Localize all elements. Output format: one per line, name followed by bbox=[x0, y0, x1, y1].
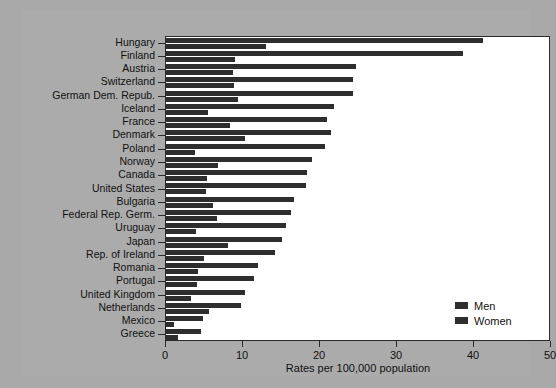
bar-men bbox=[166, 117, 327, 122]
y-axis-tick-label: Uruguay bbox=[115, 222, 155, 233]
bar-women bbox=[166, 203, 213, 208]
bar-men bbox=[166, 250, 275, 255]
bar-men bbox=[166, 237, 282, 242]
bar-women bbox=[166, 216, 217, 221]
y-axis-tick-label: Federal Rep. Germ. bbox=[62, 209, 155, 220]
bar-men bbox=[166, 290, 245, 295]
y-axis-tick-label: Austria bbox=[122, 63, 155, 74]
x-axis-tick-label: 20 bbox=[313, 349, 325, 361]
x-axis-tick-label: 30 bbox=[390, 349, 402, 361]
x-axis-tick-label: 10 bbox=[236, 349, 248, 361]
bar-men bbox=[166, 183, 306, 188]
legend-swatch-icon bbox=[455, 317, 468, 324]
bar-men bbox=[166, 157, 312, 162]
y-axis-tick bbox=[158, 228, 165, 229]
y-axis-tick-label: Poland bbox=[122, 143, 155, 154]
x-axis-tick bbox=[473, 341, 474, 347]
bar-men bbox=[166, 263, 258, 268]
bar-women bbox=[166, 57, 235, 62]
x-axis-tick bbox=[165, 341, 166, 347]
y-axis-tick-label: France bbox=[122, 116, 155, 127]
y-axis-tick-label: Canada bbox=[118, 169, 155, 180]
x-axis-tick-label: 50 bbox=[544, 349, 556, 361]
y-axis-tick-label: United Kingdom bbox=[80, 289, 155, 300]
chart-panel: HungaryFinlandAustriaSwitzerlandGerman D… bbox=[22, 10, 530, 376]
bar-men bbox=[166, 197, 294, 202]
x-axis-title: Rates per 100,000 population bbox=[165, 362, 551, 374]
y-axis-tick bbox=[158, 242, 165, 243]
bar-women bbox=[166, 309, 209, 314]
y-axis-tick-label: Norway bbox=[119, 156, 155, 167]
y-axis-tick bbox=[158, 56, 165, 57]
bar-men bbox=[166, 51, 463, 56]
y-axis-tick-label: Greece bbox=[121, 328, 155, 339]
y-axis-tick-label: Hungary bbox=[115, 37, 155, 48]
bar-men bbox=[166, 38, 483, 43]
y-axis-tick bbox=[158, 202, 165, 203]
y-axis-tick bbox=[158, 69, 165, 70]
bar-women bbox=[166, 97, 238, 102]
bar-women bbox=[166, 176, 207, 181]
y-axis-tick-label: Netherlands bbox=[98, 302, 155, 313]
bar-women bbox=[166, 83, 234, 88]
bar-women bbox=[166, 150, 195, 155]
bars-container bbox=[166, 37, 551, 342]
y-axis-tick bbox=[158, 281, 165, 282]
y-axis-tick bbox=[158, 109, 165, 110]
bar-men bbox=[166, 316, 203, 321]
bar-men bbox=[166, 303, 241, 308]
bar-women bbox=[166, 229, 196, 234]
legend-swatch-icon bbox=[455, 302, 468, 309]
y-axis-tick bbox=[158, 122, 165, 123]
x-axis-tick bbox=[396, 341, 397, 347]
y-axis-tick-label: Rep. of Ireland bbox=[86, 249, 155, 260]
y-axis-tick-label: Bulgaria bbox=[116, 196, 155, 207]
bar-women bbox=[166, 189, 206, 194]
y-axis-tick-label: Japan bbox=[126, 236, 155, 247]
bar-men bbox=[166, 170, 307, 175]
bar-men bbox=[166, 144, 325, 149]
bar-women bbox=[166, 163, 218, 168]
x-axis: 01020304050 bbox=[165, 341, 551, 381]
bar-women bbox=[166, 123, 230, 128]
y-axis-tick-label: German Dem. Repub. bbox=[52, 90, 155, 101]
bar-men bbox=[166, 223, 286, 228]
x-axis-tick-label: 0 bbox=[162, 349, 168, 361]
bar-men bbox=[166, 91, 353, 96]
y-axis-tick bbox=[158, 82, 165, 83]
x-axis-tick bbox=[550, 341, 551, 347]
y-axis-tick bbox=[158, 162, 165, 163]
y-axis-tick-label: Iceland bbox=[121, 103, 155, 114]
bar-men bbox=[166, 64, 356, 69]
bar-men bbox=[166, 210, 291, 215]
chart-legend: MenWomen bbox=[455, 298, 535, 328]
legend-item: Men bbox=[455, 298, 535, 313]
x-axis-tick bbox=[319, 341, 320, 347]
y-axis-tick-label: Mexico bbox=[122, 315, 155, 326]
bar-women bbox=[166, 322, 174, 327]
bar-men bbox=[166, 329, 201, 334]
legend-item: Women bbox=[455, 313, 535, 328]
bar-women bbox=[166, 70, 233, 75]
y-axis-tick-label: Switzerland bbox=[101, 76, 155, 87]
y-axis-tick-label: United States bbox=[92, 183, 155, 194]
bar-women bbox=[166, 335, 178, 340]
bar-men bbox=[166, 104, 334, 109]
y-axis-tick bbox=[158, 268, 165, 269]
y-axis-tick bbox=[158, 43, 165, 44]
plot-area bbox=[165, 36, 550, 341]
legend-label: Women bbox=[474, 315, 512, 327]
bar-women bbox=[166, 256, 204, 261]
y-axis-tick bbox=[158, 189, 165, 190]
y-axis-tick bbox=[158, 135, 165, 136]
bar-men bbox=[166, 77, 353, 82]
x-axis-tick bbox=[242, 341, 243, 347]
y-axis-tick bbox=[158, 96, 165, 97]
y-axis-tick bbox=[158, 175, 165, 176]
legend-label: Men bbox=[474, 300, 495, 312]
y-axis-tick-label: Denmark bbox=[112, 129, 155, 140]
y-axis-tick-label: Romania bbox=[113, 262, 155, 273]
y-axis-tick bbox=[158, 334, 165, 335]
bar-men bbox=[166, 130, 331, 135]
